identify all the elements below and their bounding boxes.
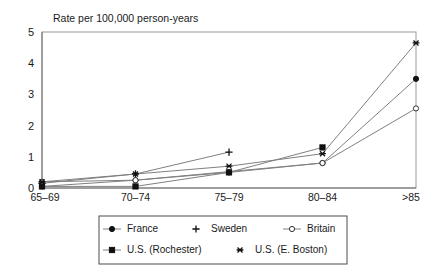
data-point-marker-filled-square [320,145,325,150]
series-line [42,43,416,182]
data-point-marker-filled-circle [109,226,114,231]
x-axis-ticks: 65–6970–7475–7980–84>85 [30,191,420,203]
y-tick-label: 3 [28,88,34,100]
legend: FranceSwedenBritainU.S. (Rochester)U.S. … [99,216,347,264]
series-layer [38,40,419,189]
data-point-marker-filled-square [109,247,114,252]
y-tick-label: 2 [28,120,34,132]
legend-label: Sweden [211,223,247,234]
x-tick-label: 75–79 [214,191,243,203]
y-tick-label: 1 [28,151,34,163]
data-point-marker-asterisk [226,164,233,169]
data-point-marker-open-circle [133,178,138,183]
legend-label: U.S. (E. Boston) [255,244,327,255]
y-tick-label: 5 [28,26,34,38]
data-point-marker-filled-square [39,184,44,189]
chart-container: Rate per 100,000 person-years 012345 65–… [0,0,446,274]
legend-label: Britain [307,223,335,234]
legend-label: U.S. (Rochester) [127,244,201,255]
x-tick-label: >85 [402,191,420,203]
x-tick-label: 70–74 [121,191,150,203]
data-point-marker-filled-square [226,170,231,175]
data-point-marker-open-circle [320,160,325,165]
data-point-marker-open-circle [413,106,418,111]
y-tick-label: 4 [28,57,34,69]
line-chart: Rate per 100,000 person-years 012345 65–… [0,0,446,274]
series-u-s-e-boston [39,40,420,184]
chart-title: Rate per 100,000 person-years [53,12,198,24]
data-point-marker-filled-circle [413,76,418,81]
data-point-marker-open-circle [289,226,294,231]
data-point-marker-asterisk [319,151,326,156]
data-point-marker-filled-square [133,184,138,189]
x-tick-label: 65–69 [30,191,59,203]
legend-label: France [127,223,159,234]
data-point-marker-plus [225,149,232,156]
x-tick-label: 80–84 [308,191,337,203]
y-axis-ticks: 012345 [28,26,34,194]
